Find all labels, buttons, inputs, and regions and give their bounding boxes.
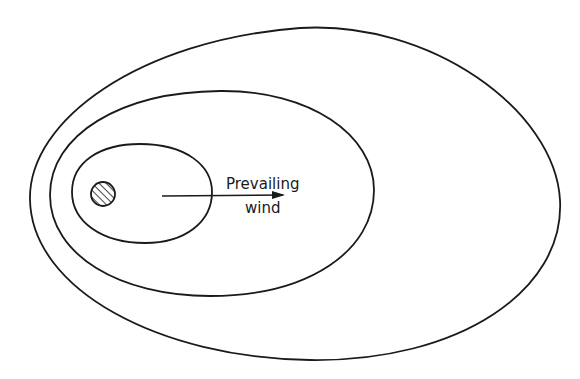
wind-label-line1: Prevailing [226,175,299,193]
wind-label-line2: wind [245,199,280,217]
source-icon [91,182,115,206]
pollution-dispersion-diagram: Prevailing wind [0,0,580,379]
